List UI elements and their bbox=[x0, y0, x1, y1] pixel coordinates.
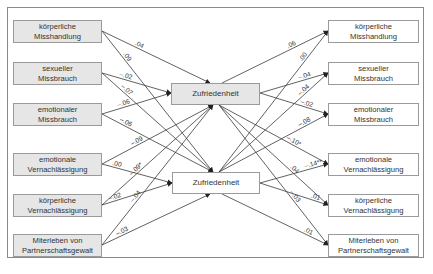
path-arrow bbox=[260, 73, 328, 93]
path-arrow bbox=[222, 31, 328, 83]
left-box-sexueller-missbrauch: sexueller Missbrauch bbox=[13, 62, 102, 85]
path-arrow bbox=[102, 194, 210, 245]
path-coefficient: –.02 bbox=[119, 70, 134, 80]
path-coefficient: .09 bbox=[122, 51, 133, 63]
right-box-emotionaler-missbrauch: emotionaler Missbrauch bbox=[328, 103, 419, 126]
left-box-emotionale-vernachlaessigung: emotionale Vernachlässigung bbox=[13, 153, 102, 176]
path-coefficient: –.14** bbox=[304, 158, 324, 170]
right-box-emotionale-vernachlaessigung: emotionale Vernachlässigung bbox=[328, 153, 419, 176]
left-box-miterleben-partnerschaftsgewalt: Miterleben von Partnerschaftsgewalt bbox=[13, 234, 102, 257]
right-box-sexueller-missbrauch: sexueller Missbrauch bbox=[328, 62, 419, 85]
path-arrow bbox=[260, 93, 328, 114]
path-coefficient: .01 bbox=[303, 226, 315, 236]
path-coefficient: –.04 bbox=[128, 189, 142, 204]
path-coefficient: –.04 bbox=[297, 70, 312, 80]
center-box-zufriedenheit-top: Zufriedenheit bbox=[171, 83, 260, 105]
path-coefficient: –.06 bbox=[116, 97, 131, 108]
path-arrow bbox=[102, 93, 171, 114]
path-coefficient: –.06 bbox=[119, 116, 134, 128]
path-coefficient: .04 bbox=[289, 163, 301, 175]
right-box-koerperliche-vernachlaessigung: körperliche Vernachlässigung bbox=[328, 194, 419, 217]
left-box-emotionaler-missbrauch: emotionaler Missbrauch bbox=[13, 103, 102, 126]
path-arrow bbox=[102, 31, 210, 83]
path-coefficient: –.04 bbox=[296, 82, 310, 96]
path-coefficient: –.07 bbox=[120, 83, 134, 97]
left-box-koerperliche-vernachlaessigung: körperliche Vernachlässigung bbox=[13, 194, 102, 217]
right-box-koerperliche-misshandlung: körperliche Misshandlung bbox=[328, 20, 419, 43]
right-box-miterleben-partnerschaftsgewalt: Miterleben von Partnerschaftsgewalt bbox=[328, 234, 419, 257]
path-coefficient: .00 bbox=[297, 50, 308, 62]
path-coefficient: .04 bbox=[134, 39, 146, 49]
left-box-koerperliche-misshandlung: körperliche Misshandlung bbox=[13, 20, 102, 43]
center-box-zufriedenheit-bottom: Zufriedenheit bbox=[172, 172, 260, 194]
path-coefficient: –.08 bbox=[297, 115, 312, 127]
path-coefficient: .06 bbox=[285, 39, 297, 49]
path-coefficient: –.03 bbox=[289, 189, 303, 204]
path-coefficient: –.02 bbox=[300, 98, 315, 109]
path-coefficient: –.02 bbox=[107, 191, 122, 202]
path-diagram: .04.09–.02–.07–.06–.06–.09.00–.09*–.02–.… bbox=[0, 0, 433, 274]
path-coefficient: –.09 bbox=[129, 134, 144, 146]
path-arrow bbox=[102, 73, 171, 93]
path-arrow bbox=[222, 194, 328, 245]
